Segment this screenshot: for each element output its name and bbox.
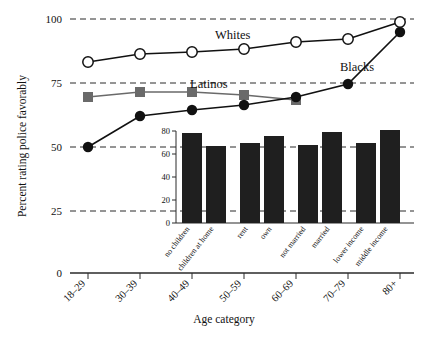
blacks-marker-1 [83,142,93,152]
x-tick-label-2: 30–39 [113,278,139,304]
latinos-marker-2 [135,87,145,97]
inset-bar-lower-income [356,143,376,223]
series-label-blacks: Blacks [340,60,374,74]
inset-bar-own [264,136,284,223]
inset-cat-label-married: married [309,225,331,250]
x-tick-label-4: 50–59 [217,278,243,304]
y-tick-25: 25 [51,205,63,217]
whites-marker-3 [187,47,197,57]
y-tick-75: 75 [51,77,63,89]
inset-bar-middle-income [380,130,400,223]
whites-marker-4 [239,44,249,54]
series-label-latinos: Latinos [190,77,228,91]
inset-bar-not-married [298,145,318,223]
x-tick-label-3: 40–49 [165,278,191,304]
blacks-marker-7 [395,27,405,37]
chart-svg: 100 75 50 25 0 Percent rating police fav… [0,0,428,338]
whites-marker-6 [343,34,353,44]
whites-marker-5 [291,37,301,47]
inset-bar-married [322,132,342,223]
series-label-whites: Whites [215,28,251,42]
blacks-marker-4 [239,100,249,110]
latinos-marker-1 [83,92,93,102]
x-tick-label-1: 18–29 [61,278,87,304]
inset-y-label-80: 80 [162,126,171,136]
whites-marker-2 [135,49,145,59]
inset-cat-label-rent: rent [235,224,250,240]
blacks-marker-2 [135,111,145,121]
x-tick-label-7: 80+ [380,278,399,297]
blacks-marker-6 [343,79,353,89]
inset-cat-label-not-married: not married [278,225,308,260]
inset-bar-chart: 80 60 40 20 0 no children children at ho… [162,126,415,273]
y-tick-100: 100 [46,13,63,25]
blacks-marker-3 [187,105,197,115]
inset-y-label-40: 40 [162,172,171,182]
x-axis [70,273,414,279]
inset-bar-children-at-home [206,146,226,223]
inset-cat-label-own: own [258,225,274,241]
x-tick-label-6: 70–79 [321,278,347,304]
x-axis-tick-labels: 18–29 30–39 40–49 50–59 60–69 70–79 80+ [61,278,399,304]
whites-marker-1 [83,57,93,67]
blacks-marker-5 [291,92,301,102]
y-tick-0: 0 [57,267,63,279]
whites-marker-7 [395,17,405,27]
x-axis-title: Age category [193,313,255,326]
x-tick-label-5: 60–69 [269,278,295,304]
y-axis-ticks: 100 75 50 25 0 [46,13,63,279]
y-axis-title: Percent rating police favorably [16,75,29,217]
inset-bar-rent [240,143,260,223]
y-tick-50: 50 [51,141,63,153]
inset-y-label-20: 20 [162,195,171,205]
latinos-marker-4 [239,90,249,100]
inset-y-label-0: 0 [166,218,170,228]
inset-bar-no-children [182,133,202,223]
inset-y-label-60: 60 [162,149,171,159]
chart-figure: 100 75 50 25 0 Percent rating police fav… [0,0,428,338]
